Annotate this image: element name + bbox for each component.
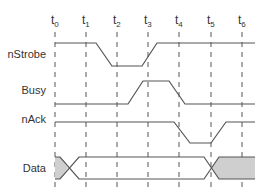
time-label: t0 — [51, 13, 59, 29]
signal-label: nAck — [22, 113, 47, 125]
signal-label: Data — [23, 162, 47, 174]
data-invalid-region — [212, 157, 255, 179]
time-label: t5 — [207, 13, 215, 29]
signal-label: nStrobe — [7, 48, 46, 60]
timing-diagram-canvas: t0t1t2t3t4t5t6nStrobeBusynAckData — [0, 0, 269, 193]
time-label: t2 — [113, 13, 121, 29]
time-label: t1 — [82, 13, 90, 29]
timing-diagram: t0t1t2t3t4t5t6nStrobeBusynAckData — [0, 0, 269, 193]
signal-waveform — [55, 81, 255, 104]
data-invalid-region — [55, 157, 68, 179]
signal-waveform — [55, 43, 255, 66]
time-label: t3 — [144, 13, 152, 29]
signal-waveform — [55, 122, 255, 143]
time-label: t4 — [175, 13, 183, 29]
signal-label: Busy — [22, 84, 47, 96]
time-label: t6 — [238, 13, 246, 29]
